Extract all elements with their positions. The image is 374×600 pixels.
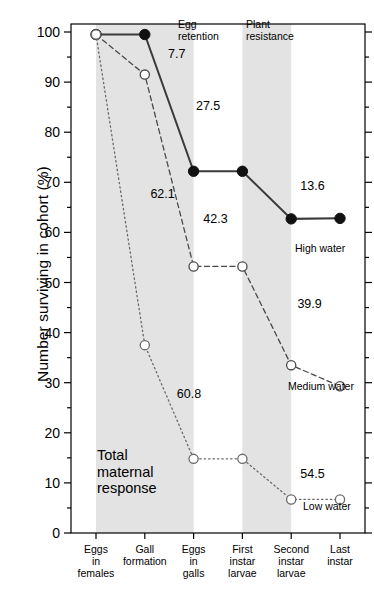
band-caption-1: Plantresistance: [246, 18, 294, 42]
annotation-1: 27.5: [196, 99, 220, 113]
annotation-4: 13.6: [300, 179, 324, 193]
data-point: [238, 262, 247, 271]
x-tick-label-5: Lastinstar: [305, 543, 374, 567]
series-label-low-water: Low water: [303, 500, 351, 512]
data-point: [238, 454, 247, 463]
annotation-5: 60.8: [177, 387, 201, 401]
data-point: [140, 70, 149, 79]
band-caption-0: Eggretention: [178, 18, 219, 42]
data-point: [91, 30, 100, 39]
annotation-0: 7.7: [168, 47, 185, 61]
annotation-6: 39.9: [297, 297, 321, 311]
annotation-3: 42.3: [203, 212, 227, 226]
data-point: [188, 166, 198, 176]
annotation-2: 62.1: [150, 187, 174, 201]
series-label-medium-water: Medium water: [288, 380, 354, 392]
data-point: [140, 29, 150, 39]
data-point: [287, 361, 296, 370]
inline-note-total-maternal-response: Totalmaternalresponse: [97, 447, 157, 497]
figure-root: Number surviving in cohort (%) 010203040…: [0, 0, 374, 600]
data-point: [286, 214, 296, 224]
data-point: [189, 262, 198, 271]
data-point: [335, 213, 345, 223]
series-label-high-water: High water: [295, 242, 345, 254]
data-point: [237, 166, 247, 176]
data-point: [287, 495, 296, 504]
annotation-7: 54.5: [300, 467, 324, 481]
data-point: [140, 341, 149, 350]
data-point: [189, 454, 198, 463]
shaded-band-1: [242, 24, 291, 533]
